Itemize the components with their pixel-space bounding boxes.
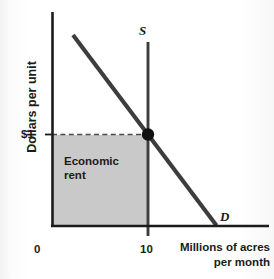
- economic-rent-label-line2: rent: [64, 169, 86, 183]
- chart-graphics: [0, 0, 274, 279]
- x-tick-label-origin: 0: [34, 243, 40, 257]
- economic-rent-label-line1: Economic: [64, 155, 119, 169]
- equilibrium-point-dot: [142, 128, 154, 140]
- supply-curve-label: S: [139, 23, 146, 38]
- y-tick-label-price: $1: [21, 128, 34, 142]
- y-axis-title: Dollars per unit: [25, 37, 39, 177]
- economic-rent-chart-figure: Dollars per unit $1 0 10 S D Economic re…: [0, 0, 274, 279]
- demand-curve-label: D: [220, 209, 229, 224]
- x-tick-label-quantity: 10: [140, 243, 153, 257]
- x-axis-title-line2: per month: [172, 256, 270, 270]
- x-axis-title-line1: Millions of acres: [172, 241, 270, 255]
- chart-plot-area: Dollars per unit $1 0 10 S D Economic re…: [0, 0, 274, 279]
